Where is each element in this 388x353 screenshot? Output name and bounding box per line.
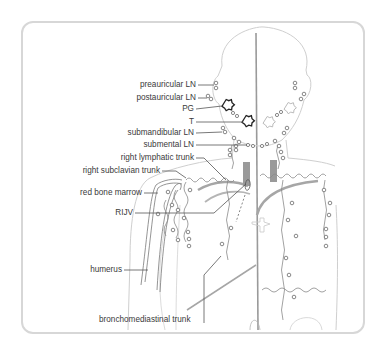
body-outline-left xyxy=(286,140,335,166)
left-parotid-star xyxy=(284,103,296,114)
diaphragm-line xyxy=(187,265,256,310)
label-postauricular-ln: postauricular LN xyxy=(136,94,196,102)
left-tonsil-star xyxy=(263,117,275,128)
label-right-lymphatic-trunk: right lymphatic trunk xyxy=(121,154,194,162)
tonsil-star xyxy=(242,116,254,127)
humerus-outline-2 xyxy=(145,183,182,282)
lymphatic-diagram xyxy=(0,0,388,353)
bone-outline-3 xyxy=(157,183,181,290)
bladder-hint xyxy=(290,318,322,330)
left-subclavian-vein xyxy=(257,181,318,215)
torso-outline-right xyxy=(176,205,180,330)
dashed-duct xyxy=(236,195,245,222)
label-preauricular-ln: preauricular LN xyxy=(140,81,196,89)
label-pg: PG xyxy=(182,105,194,113)
left-internal-jugular-vein xyxy=(270,160,277,182)
right-internal-jugular-vein xyxy=(243,162,250,186)
label-t: T xyxy=(189,118,194,126)
label-submandibular-ln: submandibular LN xyxy=(128,129,194,137)
label-rijv: RIJV xyxy=(115,209,133,217)
sternum-shape xyxy=(252,218,270,232)
leader-lines xyxy=(124,85,247,323)
label-red-bone-marrow: red bone marrow xyxy=(80,189,142,197)
lymph-nodes xyxy=(156,81,332,299)
label-humerus: humerus xyxy=(90,266,122,274)
midline xyxy=(256,33,258,330)
parotid-gland-star xyxy=(222,100,234,111)
label-right-subclavian-trunk: right subclavian trunk xyxy=(83,167,160,175)
label-bronchomediastinal-trunk: bronchomediastinal trunk xyxy=(99,316,190,324)
torso-outline-left xyxy=(336,205,338,330)
label-submental-ln: submental LN xyxy=(143,141,194,149)
